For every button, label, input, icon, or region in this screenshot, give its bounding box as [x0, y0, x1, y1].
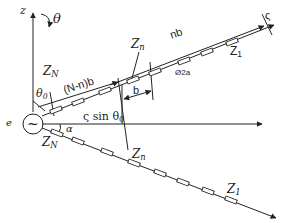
zN-top-label: ZN: [43, 65, 59, 79]
source-e-label: e: [6, 118, 12, 128]
zN-bottom-label: ZN: [42, 136, 58, 150]
theta0-label: θ0: [36, 88, 48, 101]
z-axis-label: z: [20, 5, 26, 16]
b-label: b: [133, 85, 139, 96]
alpha-label: α: [66, 124, 73, 134]
source-symbol: ~: [27, 117, 39, 131]
diameter-label: Ø2a: [175, 69, 190, 77]
theta-label: θ: [53, 12, 61, 25]
zn-bottom-label: Zn: [132, 148, 146, 162]
z1-bottom-label: Z1: [227, 183, 241, 197]
z1-top-label: Z1: [230, 45, 242, 59]
zn-top-label: Zn: [131, 38, 145, 52]
theta-arrow: [41, 14, 50, 27]
zeta-sin-theta0-label: ς sin θ0: [83, 111, 124, 124]
zeta-label: ς: [265, 10, 270, 21]
